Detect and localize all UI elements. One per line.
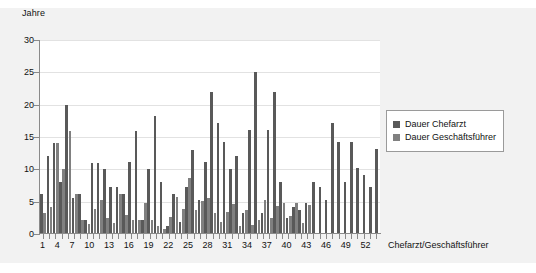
bar-chefarzt (135, 131, 138, 234)
bar-chefarzt (191, 150, 194, 234)
bar-chefarzt (47, 156, 50, 234)
x-axis-tick-label: 13 (104, 240, 114, 254)
bar-chefarzt (53, 143, 56, 234)
x-axis-tick-mark (269, 234, 270, 239)
bar-chefarzt (172, 194, 175, 234)
legend-item-chefarzt: Dauer Chefarzt (393, 119, 496, 129)
bar-chefarzt (84, 220, 87, 234)
x-axis-tick-mark (313, 234, 314, 239)
bar-chefarzt (91, 163, 94, 234)
bar-series-group (40, 40, 380, 234)
x-axis-tick-mark (200, 234, 201, 239)
y-axis-labels: 051015202530 (8, 40, 34, 234)
x-axis-tick-mark (55, 234, 56, 239)
x-axis-tick-mark (43, 234, 44, 239)
bar-chefarzt (350, 142, 353, 234)
bar-chefarzt (267, 130, 270, 234)
bar-chefarzt (122, 194, 125, 234)
x-axis-tick-mark (263, 234, 264, 239)
x-axis-tick-mark (99, 234, 100, 239)
y-axis-tick-label: 5 (16, 197, 34, 207)
bar-chefarzt (248, 130, 251, 234)
x-axis-tick-mark (332, 234, 333, 239)
x-axis-tick-label: 40 (282, 240, 292, 254)
x-axis-tick-mark (357, 234, 358, 239)
bar-chefarzt (40, 194, 43, 234)
bar-chefarzt (160, 182, 163, 234)
x-axis-tick-label (375, 240, 380, 254)
x-axis-tick-mark (326, 234, 327, 239)
x-axis-tick-mark (307, 234, 308, 239)
x-axis-tick-mark (213, 234, 214, 239)
bar-chefarzt (185, 187, 188, 234)
bar-chefarzt (286, 218, 289, 234)
bar-chefarzt (154, 116, 157, 234)
x-axis-tick-mark (288, 234, 289, 239)
legend-swatch-icon (393, 121, 400, 128)
y-axis-tick (34, 105, 40, 106)
bar-chefarzt (279, 182, 282, 234)
x-axis-tick-mark (162, 234, 163, 239)
bar-chefarzt (116, 187, 119, 234)
x-axis-tick-mark (118, 234, 119, 239)
x-axis-tick-mark (93, 234, 94, 239)
x-axis-tick-mark (232, 234, 233, 239)
bar-chefarzt (223, 142, 226, 234)
bar-chefarzt (97, 163, 100, 234)
x-axis-tick-mark (238, 234, 239, 239)
legend-swatch-icon (393, 134, 400, 141)
y-axis-tick-label: 25 (16, 67, 34, 77)
x-axis-tick-mark (301, 234, 302, 239)
bar-chefarzt (141, 220, 144, 234)
bar-chefarzt (210, 92, 213, 234)
x-axis-tick-mark (49, 234, 50, 239)
bar-group (374, 40, 380, 234)
bar-chefarzt (337, 142, 340, 234)
bar-chefarzt (319, 187, 322, 234)
x-axis-tick-label: 16 (124, 240, 134, 254)
y-axis-tick (34, 137, 40, 138)
x-axis-ticks (40, 234, 380, 239)
bar-chefarzt (72, 198, 75, 234)
x-axis-tick-mark (225, 234, 226, 239)
x-axis-tick-label: 31 (222, 240, 232, 254)
x-axis-tick-mark (62, 234, 63, 239)
x-axis-tick-label: 52 (360, 240, 370, 254)
x-axis-tick-mark (376, 234, 377, 239)
x-axis-tick-mark (68, 234, 69, 239)
bar-chefarzt (375, 149, 378, 234)
bar-chefarzt (204, 162, 207, 234)
x-axis-tick-mark (206, 234, 207, 239)
bar-chefarzt (292, 207, 295, 234)
x-axis-tick-mark (143, 234, 144, 239)
bar-chefarzt (217, 123, 220, 234)
x-axis-tick-mark (112, 234, 113, 239)
x-axis-tick-label: 19 (143, 240, 153, 254)
x-axis-tick-label: 49 (341, 240, 351, 254)
bar-chefarzt (298, 210, 301, 234)
x-axis-tick-mark (339, 234, 340, 239)
x-axis-tick-label: 34 (242, 240, 252, 254)
bar-chefarzt (273, 92, 276, 234)
bar-chefarzt (65, 105, 68, 234)
bar-chefarzt (312, 182, 315, 234)
legend: Dauer Chefarzt Dauer Geschäftsführer (386, 110, 504, 152)
x-axis-tick-mark (106, 234, 107, 239)
x-axis-tick-label: 10 (84, 240, 94, 254)
bar-chefarzt (325, 200, 328, 234)
bar-chefarzt (59, 182, 62, 234)
page-bottom-band (0, 263, 536, 273)
x-axis-tick-mark (364, 234, 365, 239)
x-axis-tick-mark (156, 234, 157, 239)
y-axis-tick-label: 0 (16, 229, 34, 239)
x-axis-tick-mark (219, 234, 220, 239)
x-axis-tick-label: 25 (183, 240, 193, 254)
bar-chefarzt (78, 194, 81, 234)
x-axis-tick-mark (250, 234, 251, 239)
bar-chefarzt (369, 187, 372, 234)
y-axis-tick-label: 10 (16, 164, 34, 174)
bar-chefarzt (261, 213, 264, 234)
bar-chefarzt (356, 168, 359, 234)
x-axis-tick-mark (150, 234, 151, 239)
y-axis-tick (34, 169, 40, 170)
